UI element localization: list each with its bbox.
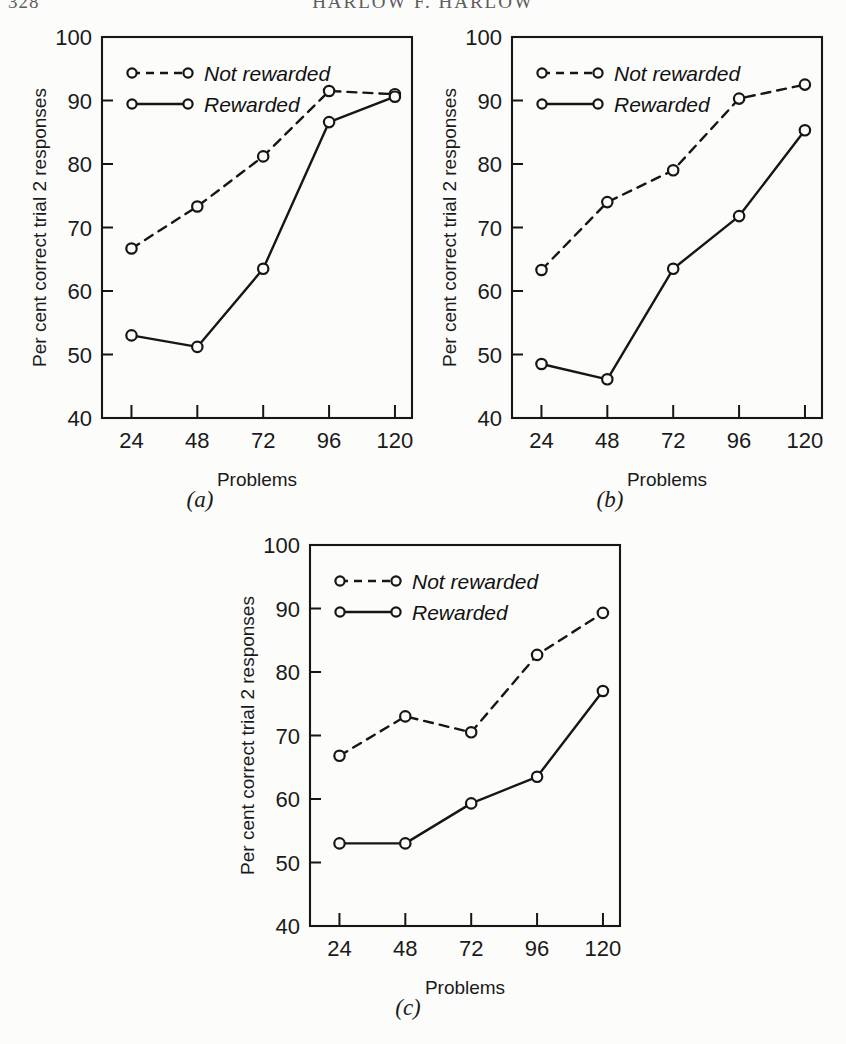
data-point-marker bbox=[668, 264, 678, 274]
data-point-marker bbox=[390, 92, 400, 102]
x-axis-tick-label: 72 bbox=[251, 428, 275, 453]
y-axis-title: Per cent correct trial 2 responses bbox=[29, 88, 50, 367]
y-axis-tick-label: 90 bbox=[68, 89, 92, 114]
data-point-marker bbox=[532, 650, 542, 660]
data-point-marker bbox=[668, 165, 678, 175]
data-point-marker bbox=[466, 727, 476, 737]
data-point-marker bbox=[602, 374, 612, 384]
x-axis-tick-label: 48 bbox=[393, 936, 417, 961]
chart-svg-b: 40506070809010024487296120ProblemsPer ce… bbox=[430, 24, 830, 464]
chart-panel-b: 40506070809010024487296120ProblemsPer ce… bbox=[430, 24, 830, 464]
y-axis-tick-label: 70 bbox=[478, 216, 502, 241]
legend-marker bbox=[183, 99, 192, 108]
data-point-marker bbox=[536, 359, 546, 369]
data-point-marker bbox=[400, 838, 410, 848]
legend-marker bbox=[335, 576, 344, 585]
legend-marker bbox=[593, 68, 602, 77]
data-point-marker bbox=[258, 264, 268, 274]
panel-caption-b: (b) bbox=[580, 487, 640, 513]
legend-label-not-rewarded: Not rewarded bbox=[614, 62, 741, 85]
y-axis-tick-label: 90 bbox=[276, 597, 300, 622]
y-axis-tick-label: 60 bbox=[478, 279, 502, 304]
data-point-marker bbox=[800, 79, 810, 89]
legend-label-rewarded: Rewarded bbox=[614, 93, 711, 116]
data-point-marker bbox=[400, 711, 410, 721]
series-line-rewarded bbox=[340, 691, 603, 843]
data-point-marker bbox=[192, 342, 202, 352]
y-axis-title: Per cent correct trial 2 responses bbox=[237, 596, 258, 875]
series-line-rewarded bbox=[132, 97, 395, 347]
x-axis-tick-label: 72 bbox=[661, 428, 685, 453]
data-point-marker bbox=[126, 330, 136, 340]
data-point-marker bbox=[602, 197, 612, 207]
y-axis-tick-label: 80 bbox=[478, 152, 502, 177]
data-point-marker bbox=[800, 125, 810, 135]
y-axis-tick-label: 100 bbox=[263, 533, 300, 558]
x-axis-tick-label: 120 bbox=[585, 936, 622, 961]
data-point-marker bbox=[466, 798, 476, 808]
data-point-marker bbox=[126, 243, 136, 253]
data-point-marker bbox=[532, 772, 542, 782]
chart-panel-c: 40506070809010024487296120ProblemsPer ce… bbox=[228, 532, 628, 972]
chart-svg-a: 40506070809010024487296120ProblemsPer ce… bbox=[20, 24, 420, 464]
legend-marker bbox=[391, 607, 400, 616]
chart-panel-a: 40506070809010024487296120ProblemsPer ce… bbox=[20, 24, 420, 464]
y-axis-tick-label: 100 bbox=[55, 25, 92, 50]
running-head: 328 HARLOW F. HARLOW bbox=[0, 0, 846, 14]
y-axis-tick-label: 60 bbox=[276, 787, 300, 812]
x-axis-tick-label: 24 bbox=[529, 428, 553, 453]
x-axis-tick-label: 48 bbox=[595, 428, 619, 453]
legend-label-rewarded: Rewarded bbox=[204, 93, 301, 116]
legend-marker bbox=[183, 68, 192, 77]
legend-label-rewarded: Rewarded bbox=[412, 601, 509, 624]
data-point-marker bbox=[192, 201, 202, 211]
data-point-marker bbox=[324, 86, 334, 96]
y-axis-tick-label: 50 bbox=[276, 851, 300, 876]
y-axis-tick-label: 90 bbox=[478, 89, 502, 114]
panel-caption-c: (c) bbox=[378, 995, 438, 1021]
x-axis-tick-label: 96 bbox=[727, 428, 751, 453]
legend-marker bbox=[335, 607, 344, 616]
data-point-marker bbox=[536, 265, 546, 275]
data-point-marker bbox=[598, 608, 608, 618]
data-point-marker bbox=[334, 751, 344, 761]
legend-marker bbox=[391, 576, 400, 585]
x-axis-tick-label: 72 bbox=[459, 936, 483, 961]
panel-caption-a: (a) bbox=[170, 487, 230, 513]
y-axis-tick-label: 80 bbox=[276, 660, 300, 685]
data-point-marker bbox=[324, 117, 334, 127]
y-axis-tick-label: 50 bbox=[478, 343, 502, 368]
legend-marker bbox=[127, 68, 136, 77]
legend-label-not-rewarded: Not rewarded bbox=[204, 62, 331, 85]
x-axis-tick-label: 48 bbox=[185, 428, 209, 453]
data-point-marker bbox=[334, 838, 344, 848]
y-axis-tick-label: 80 bbox=[68, 152, 92, 177]
chart-svg-c: 40506070809010024487296120ProblemsPer ce… bbox=[228, 532, 628, 972]
y-axis-tick-label: 50 bbox=[68, 343, 92, 368]
y-axis-tick-label: 40 bbox=[478, 406, 502, 431]
data-point-marker bbox=[258, 151, 268, 161]
data-point-marker bbox=[734, 93, 744, 103]
y-axis-title: Per cent correct trial 2 responses bbox=[439, 88, 460, 367]
y-axis-tick-label: 70 bbox=[68, 216, 92, 241]
x-axis-tick-label: 120 bbox=[787, 428, 824, 453]
y-axis-tick-label: 60 bbox=[68, 279, 92, 304]
x-axis-tick-label: 24 bbox=[119, 428, 143, 453]
x-axis-tick-label: 24 bbox=[327, 936, 351, 961]
x-axis-tick-label: 120 bbox=[377, 428, 414, 453]
legend-label-not-rewarded: Not rewarded bbox=[412, 570, 539, 593]
legend-marker bbox=[593, 99, 602, 108]
x-axis-tick-label: 96 bbox=[317, 428, 341, 453]
y-axis-tick-label: 100 bbox=[465, 25, 502, 50]
y-axis-tick-label: 40 bbox=[68, 406, 92, 431]
data-point-marker bbox=[598, 686, 608, 696]
legend-marker bbox=[127, 99, 136, 108]
data-point-marker bbox=[734, 211, 744, 221]
y-axis-tick-label: 70 bbox=[276, 724, 300, 749]
legend-marker bbox=[537, 68, 546, 77]
y-axis-tick-label: 40 bbox=[276, 914, 300, 939]
legend-marker bbox=[537, 99, 546, 108]
x-axis-tick-label: 96 bbox=[525, 936, 549, 961]
running-head-title: HARLOW F. HARLOW bbox=[0, 0, 846, 13]
